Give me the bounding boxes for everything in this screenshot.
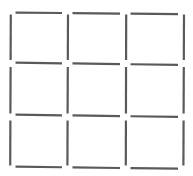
horizontal-stick-r2-c2 bbox=[131, 116, 179, 117]
horizontal-sticks bbox=[16, 13, 179, 169]
horizontal-stick-r1-c1 bbox=[73, 63, 121, 64]
horizontal-stick-r3-c2 bbox=[131, 168, 179, 169]
horizontal-stick-r1-c0 bbox=[16, 63, 63, 64]
horizontal-stick-r3-c0 bbox=[16, 167, 63, 168]
horizontal-stick-r3-c1 bbox=[73, 167, 121, 168]
vertical-sticks bbox=[10, 15, 184, 166]
horizontal-stick-r2-c1 bbox=[73, 115, 121, 116]
horizontal-stick-r2-c0 bbox=[16, 115, 63, 116]
matchstick-grid bbox=[0, 0, 193, 176]
horizontal-stick-r1-c2 bbox=[131, 64, 179, 65]
